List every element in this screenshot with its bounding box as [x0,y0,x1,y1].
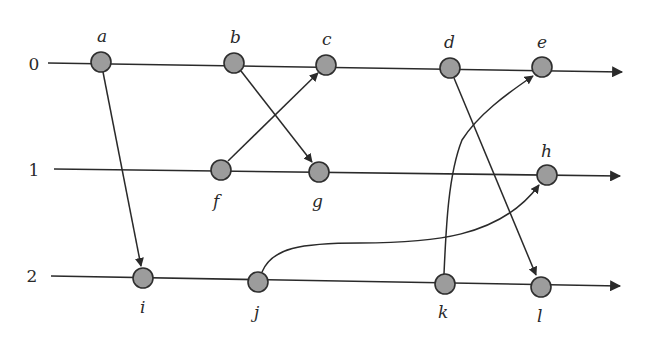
message-b-to-g [241,71,312,162]
event-label-a: a [97,26,107,46]
event-node-k [435,274,455,294]
event-label-j: j [250,302,260,322]
event-node-d [440,58,460,78]
event-label-e: e [537,32,547,52]
event-label-h: h [541,141,552,161]
event-node-l [531,277,551,297]
space-time-diagram: 012abcdefghijkl [0,0,645,342]
event-label-i: i [140,297,145,317]
event-label-k: k [438,302,448,322]
process-1-label: 1 [29,160,40,180]
event-label-c: c [322,29,332,49]
event-label-b: b [230,27,241,47]
event-node-g [309,162,329,182]
event-node-i [133,268,153,288]
event-node-b [224,53,244,73]
message-d-to-l [454,78,536,275]
event-node-e [532,57,552,77]
event-node-f [211,160,231,180]
event-label-l: l [537,306,542,326]
process-0-label: 0 [29,54,40,74]
event-node-a [91,52,111,72]
process-2-label: 2 [27,266,38,286]
event-label-g: g [312,191,323,211]
message-f-to-c [228,73,318,161]
event-label-d: d [444,32,455,52]
event-node-j [248,272,268,292]
message-j-to-h [262,185,539,272]
event-node-h [537,165,557,185]
process-1-timeline [54,169,620,176]
event-node-c [316,55,336,75]
event-label-f: f [211,191,222,211]
process-timelines [48,63,622,286]
